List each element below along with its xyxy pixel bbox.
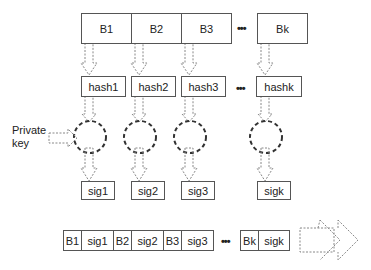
stream-sig-1: sig1: [81, 230, 114, 251]
stream-sig-3: sig3: [181, 230, 214, 251]
stream-block-b3: B3: [163, 230, 182, 251]
block-b3: B3: [181, 13, 232, 44]
sign-operations: [74, 121, 282, 153]
hash-k: hashk: [256, 76, 302, 97]
block-b1: B1: [81, 13, 132, 44]
stream-block-bk: Bk: [240, 230, 259, 251]
sig-3: sig3: [181, 181, 215, 200]
private-key-arrow: [49, 129, 77, 147]
hash-ellipsis: •••: [236, 82, 245, 94]
hash-1: hash1: [81, 76, 126, 97]
sig-k: sigk: [257, 181, 291, 200]
block-b2: B2: [131, 13, 182, 44]
hash-to-sign-arrows: [82, 96, 272, 122]
stream-ellipsis: •••: [221, 235, 230, 247]
stream-sig-k: sigk: [258, 230, 290, 251]
block-ellipsis: •••: [237, 22, 246, 34]
stream-block-b1: B1: [63, 230, 82, 251]
stream-block-b2: B2: [113, 230, 132, 251]
private-key-label: Private key: [12, 124, 46, 150]
sig-2: sig2: [131, 181, 165, 200]
hash-2: hash2: [131, 76, 176, 97]
block-bk: Bk: [257, 13, 308, 44]
sign-to-sig-arrows: [81, 148, 273, 181]
sig-1: sig1: [81, 181, 115, 200]
block-to-hash-arrows: [81, 43, 273, 75]
output-arrow: [300, 220, 358, 260]
stream-sig-2: sig2: [131, 230, 164, 251]
hash-3: hash3: [181, 76, 226, 97]
